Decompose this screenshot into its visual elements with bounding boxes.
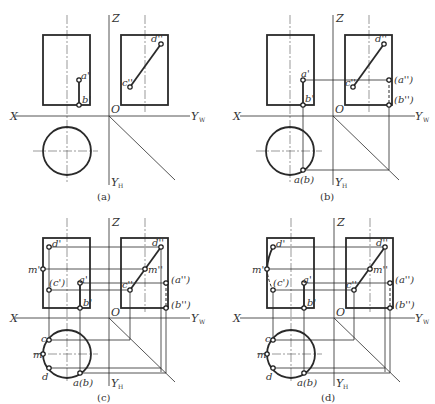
point-d-front xyxy=(271,245,275,249)
label-x: X xyxy=(9,312,19,325)
label-yw-sub: W xyxy=(199,116,206,123)
label-b-side: (b'') xyxy=(171,299,191,310)
orthographic-projection-figure: a' b' c'' d'' Z X O Y W Y H (a) xyxy=(0,0,435,404)
label-m-top: m xyxy=(33,349,42,360)
label-d-top: d xyxy=(266,371,272,382)
label-yh-sub: H xyxy=(118,383,123,390)
label-origin: O xyxy=(111,306,120,319)
label-c-top: c xyxy=(41,333,47,344)
label-c-side: c'' xyxy=(122,77,133,88)
panel-b: a' b' c'' d'' (a'') (b'') a(b) Z X O Y W… xyxy=(232,12,430,202)
label-a-side: (a'') xyxy=(394,74,413,85)
label-d-side: d'' xyxy=(375,33,387,44)
panel-d: d' m' (c') a' b' c'' d'' m'' (a'') (b'')… xyxy=(232,216,430,403)
label-z: Z xyxy=(111,12,120,25)
label-a-front: a' xyxy=(303,274,312,285)
label-d-top: d xyxy=(42,371,48,382)
label-ab-top: a(b) xyxy=(297,377,317,388)
point-a-side xyxy=(164,281,168,285)
point-d-top xyxy=(47,366,51,370)
point-m-front xyxy=(265,267,269,271)
point-a-side xyxy=(388,281,392,285)
label-z: Z xyxy=(336,216,345,229)
label-d-front: d' xyxy=(276,238,285,249)
label-m-side: m'' xyxy=(148,264,163,275)
label-b-front: b' xyxy=(83,297,92,308)
label-z: Z xyxy=(111,216,120,229)
label-yw-sub: W xyxy=(423,318,430,325)
label-a-front: a' xyxy=(79,274,88,285)
point-c-top xyxy=(47,338,51,342)
point-d-front xyxy=(47,245,51,249)
caption-c: (c) xyxy=(97,392,111,403)
label-origin: O xyxy=(335,103,344,116)
point-ab-top xyxy=(302,371,306,375)
point-b-side xyxy=(388,306,392,310)
point-c-top xyxy=(271,338,275,342)
label-c-front: (c') xyxy=(49,277,65,288)
label-c-front: (c') xyxy=(273,277,289,288)
label-m-top: m xyxy=(257,349,266,360)
caption-b: (b) xyxy=(320,191,334,202)
label-a-front: a' xyxy=(81,70,90,81)
label-b-front: b' xyxy=(307,297,316,308)
point-b-side xyxy=(387,103,391,107)
line-cd-side xyxy=(353,44,384,87)
label-b-front: b' xyxy=(82,94,91,105)
label-b-front: b' xyxy=(305,93,314,104)
label-d-side: d'' xyxy=(151,33,163,44)
point-m-front xyxy=(41,267,45,271)
point-ab-top xyxy=(78,371,82,375)
label-ab-top: a(b) xyxy=(73,377,93,388)
label-origin: O xyxy=(111,103,120,116)
label-a-side: (a'') xyxy=(171,274,190,285)
label-d-front: d' xyxy=(52,238,61,249)
point-m-side xyxy=(143,267,147,271)
label-yh-sub: H xyxy=(118,182,123,189)
label-m-side: m'' xyxy=(373,264,388,275)
point-b-side xyxy=(164,306,168,310)
miter-line xyxy=(109,318,175,382)
point-d-top xyxy=(271,366,275,370)
label-d-side: d'' xyxy=(152,237,164,248)
label-a-front: a' xyxy=(301,68,310,79)
label-x: X xyxy=(232,312,242,325)
label-ab-top: a(b) xyxy=(294,174,314,185)
label-x: X xyxy=(9,110,19,123)
label-x: X xyxy=(232,110,242,123)
label-c-top: c xyxy=(265,333,271,344)
point-b-front xyxy=(78,306,82,310)
label-c-side: c'' xyxy=(345,77,356,88)
label-m-front: m' xyxy=(28,264,40,275)
label-yh-sub: H xyxy=(342,182,347,189)
label-yw-sub: W xyxy=(423,116,430,123)
label-c-side: c'' xyxy=(122,279,133,290)
label-yw-sub: W xyxy=(199,318,206,325)
point-c-front xyxy=(271,288,275,292)
label-origin: O xyxy=(336,306,345,319)
point-ab-top xyxy=(301,168,305,172)
point-m-side xyxy=(368,267,372,271)
label-z: Z xyxy=(335,12,344,25)
label-d-side: d'' xyxy=(376,237,388,248)
line-cd-side xyxy=(130,44,161,87)
label-m-front: m' xyxy=(252,264,264,275)
point-a-side xyxy=(387,78,391,82)
point-b-front xyxy=(77,103,81,107)
panel-c: d' m' (c') a' b' c'' d'' m'' (a'') (b'')… xyxy=(9,216,206,403)
label-b-side: (b'') xyxy=(395,299,415,310)
label-c-side: c'' xyxy=(346,279,357,290)
miter-line xyxy=(109,116,175,180)
label-b-side: (b'') xyxy=(394,94,414,105)
label-yh-sub: H xyxy=(343,383,348,390)
panel-a: a' b' c'' d'' Z X O Y W Y H (a) xyxy=(9,12,206,202)
point-c-front xyxy=(47,288,51,292)
point-b-front xyxy=(302,306,306,310)
caption-a: (a) xyxy=(97,191,111,202)
caption-d: (d) xyxy=(321,392,335,403)
label-a-side: (a'') xyxy=(395,274,414,285)
